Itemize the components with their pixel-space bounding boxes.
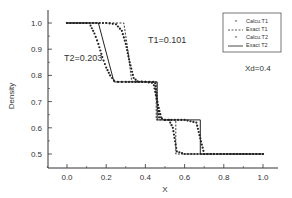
data-point — [109, 74, 111, 76]
data-point — [133, 77, 135, 79]
legend-label-exact-t1: Exact T1 — [246, 26, 268, 32]
data-point — [97, 43, 99, 45]
data-point — [99, 49, 101, 51]
data-point — [197, 128, 199, 130]
data-point — [172, 127, 174, 129]
data-point — [98, 46, 100, 48]
x-tick-label: 0.4 — [140, 173, 152, 182]
x-axis-label: X — [162, 185, 168, 194]
data-point — [196, 125, 198, 127]
data-point — [154, 85, 156, 87]
data-point — [115, 23, 117, 25]
x-tick-label: 1.0 — [257, 173, 269, 182]
data-point — [95, 36, 97, 38]
data-point — [161, 118, 163, 120]
y-tick-label: 0.7 — [31, 98, 43, 107]
y-tick-label: 1.0 — [31, 19, 43, 28]
data-point — [202, 147, 204, 149]
data-point — [195, 121, 197, 123]
data-point — [117, 25, 119, 27]
data-point — [91, 27, 93, 29]
data-point — [169, 121, 171, 123]
data-point — [119, 28, 121, 30]
chart-svg: 0.50.60.70.80.91.00.00.20.40.60.81.0 Den… — [0, 0, 292, 198]
data-point — [135, 79, 137, 81]
data-point — [121, 30, 123, 32]
x-tick-label: 0.0 — [61, 173, 73, 182]
y-tick-label: 0.6 — [31, 124, 43, 133]
data-point — [106, 69, 108, 71]
x-tick-label: 0.2 — [101, 173, 113, 182]
data-point — [154, 82, 156, 84]
data-point — [89, 25, 91, 27]
data-point — [202, 150, 204, 152]
data-point — [158, 113, 160, 115]
annotation-xd: Xd=0.4 — [245, 64, 271, 73]
data-point — [123, 36, 125, 38]
legend-label-calcu-t1: Calcu.T1 — [246, 18, 268, 24]
data-point — [155, 88, 157, 90]
data-point — [170, 124, 172, 126]
data-point — [189, 120, 191, 122]
density-chart: 0.50.60.70.80.91.00.00.20.40.60.81.0 Den… — [0, 0, 292, 198]
data-point — [93, 32, 95, 34]
data-point — [173, 137, 175, 139]
legend: * Calcu.T1 Exact T1 * Calcu.T2 Exact T2 — [223, 13, 281, 52]
data-point — [172, 130, 174, 132]
data-point — [92, 30, 94, 32]
data-point — [158, 116, 160, 118]
annotation-t2: T2=0.203 — [64, 53, 102, 63]
data-point — [105, 66, 107, 68]
data-point — [201, 143, 203, 145]
data-point — [96, 39, 98, 41]
data-point — [132, 74, 134, 76]
legend-label-exact-t2: Exact T2 — [246, 42, 268, 48]
data-point — [108, 72, 110, 74]
legend-label-calcu-t2: Calcu.T2 — [246, 34, 268, 40]
x-tick-label: 0.8 — [218, 173, 230, 182]
y-tick-label: 0.5 — [31, 150, 43, 159]
data-point — [192, 121, 194, 123]
annotation-t1: T1=0.101 — [148, 35, 186, 45]
y-tick-label: 0.8 — [31, 71, 43, 80]
data-point — [122, 33, 124, 35]
y-axis-label: Density — [7, 83, 16, 110]
data-point — [104, 63, 106, 65]
data-point — [198, 131, 200, 133]
data-point — [131, 71, 133, 73]
x-tick-label: 0.6 — [179, 173, 191, 182]
data-point — [124, 40, 126, 42]
y-tick-label: 0.9 — [31, 45, 43, 54]
data-point — [173, 133, 175, 135]
data-point — [102, 59, 104, 61]
data-point — [178, 151, 180, 153]
